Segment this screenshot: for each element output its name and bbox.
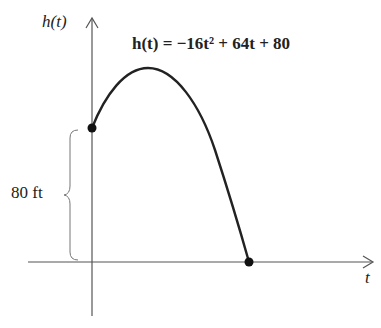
- equation-rhs: = −16t² + 64t + 80: [158, 34, 290, 53]
- start-point-marker: [88, 124, 97, 133]
- x-axis-label: t: [365, 268, 370, 288]
- parabola-curve: [92, 68, 249, 262]
- equation-lhs: h(t): [132, 34, 158, 53]
- y-axis-label: h(t): [42, 12, 67, 32]
- end-point-marker: [245, 258, 254, 267]
- height-brace-icon: [64, 130, 78, 260]
- equation-label: h(t) = −16t² + 64t + 80: [132, 34, 290, 54]
- brace-label: 80 ft: [11, 183, 43, 203]
